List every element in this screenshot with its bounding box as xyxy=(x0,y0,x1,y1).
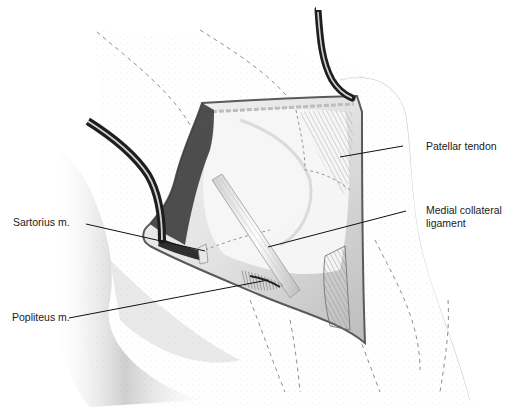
label-medial-collateral-ligament-line1: Medial collateral xyxy=(426,204,502,217)
label-sartorius: Sartorius m. xyxy=(13,216,70,229)
label-medial-collateral-ligament-line2: ligament xyxy=(426,217,466,230)
label-patellar-tendon: Patellar tendon xyxy=(426,140,497,153)
label-popliteus: Popliteus m. xyxy=(12,311,70,324)
